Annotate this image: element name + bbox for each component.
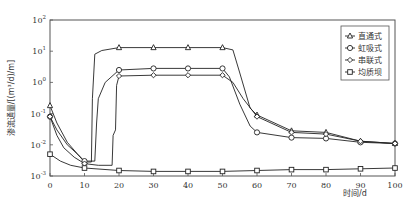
- x-tick-label: 20: [114, 181, 124, 190]
- square-marker-icon: [151, 169, 156, 174]
- square-marker-icon: [393, 166, 398, 171]
- x-tick-label: 30: [148, 181, 158, 190]
- x-tick-label: 100: [387, 181, 402, 190]
- legend-label: 直通式: [358, 31, 382, 41]
- x-tick-label: 60: [252, 181, 262, 190]
- x-tick-label: 80: [321, 181, 331, 190]
- x-tick-label: 10: [79, 181, 89, 190]
- diamond-marker-icon: [185, 73, 190, 78]
- square-legend-icon: [348, 70, 353, 75]
- y-tick-label: 101: [32, 45, 46, 56]
- circle-marker-icon: [185, 66, 190, 71]
- circle-marker-icon: [116, 67, 121, 72]
- square-marker-icon: [358, 167, 363, 172]
- y-axis-title: 渗流通量/[(m³/d)/m]: [6, 60, 16, 136]
- y-tick-label: 10-1: [30, 108, 46, 119]
- x-tick-label: 0: [47, 181, 52, 190]
- square-marker-icon: [186, 169, 191, 174]
- legend: 直通式虹吸式串联式均质坝: [341, 26, 389, 80]
- square-marker-icon: [324, 167, 329, 172]
- square-marker-icon: [220, 169, 225, 174]
- circle-marker-icon: [220, 66, 225, 71]
- square-marker-icon: [117, 168, 122, 173]
- series-square: [48, 152, 398, 174]
- square-marker-icon: [48, 152, 53, 157]
- series-diamond: [47, 73, 397, 167]
- legend-label: 虹吸式: [358, 43, 382, 53]
- circle-marker-icon: [289, 135, 294, 140]
- square-marker-icon: [289, 167, 294, 172]
- x-axis-label: 时间/d: [343, 188, 367, 198]
- triangle-marker-icon: [47, 103, 52, 108]
- circle-legend-icon: [347, 45, 352, 50]
- triangle-marker-icon: [151, 45, 156, 50]
- series-line: [50, 68, 395, 161]
- y-tick-label: 102: [32, 14, 46, 25]
- square-marker-icon: [82, 166, 87, 171]
- triangle-marker-icon: [185, 45, 190, 50]
- series-line: [50, 75, 395, 165]
- x-tick-label: 40: [183, 181, 193, 190]
- diamond-marker-icon: [116, 73, 121, 78]
- triangle-marker-icon: [116, 45, 121, 50]
- diamond-marker-icon: [151, 73, 156, 78]
- x-tick-label: 50: [217, 181, 227, 190]
- series-circle: [47, 66, 397, 164]
- seepage-flux-chart: 渗流通量/[(m³/d)/m] 10-310-210-1100101102 01…: [0, 0, 413, 212]
- legend-label: 串联式: [358, 55, 382, 65]
- y-tick-label: 10-3: [30, 170, 46, 181]
- diamond-marker-icon: [220, 73, 225, 78]
- square-marker-icon: [255, 168, 260, 173]
- y-axis-label: 渗流通量/[(m³/d)/m]: [6, 60, 16, 136]
- y-tick-label: 10-2: [30, 139, 46, 150]
- circle-marker-icon: [254, 130, 259, 135]
- triangle-marker-icon: [220, 45, 225, 50]
- legend-label: 均质坝: [358, 67, 382, 77]
- y-tick-label: 100: [32, 76, 46, 87]
- circle-marker-icon: [151, 66, 156, 71]
- x-tick-label: 70: [286, 181, 296, 190]
